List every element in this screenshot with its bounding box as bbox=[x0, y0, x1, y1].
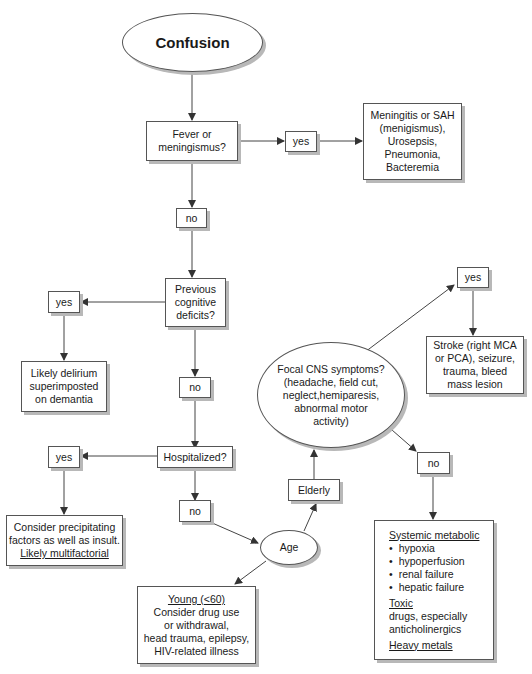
hosp-yes-label: yes bbox=[48, 446, 80, 468]
line: mass lesion bbox=[447, 378, 502, 391]
decision-previous-cognitive-deficits: Previous cognitive deficits? bbox=[165, 278, 226, 327]
outcome-systemic-toxic: Systemic metabolic hypoxia hypoperfusion… bbox=[374, 520, 494, 660]
line: Consider drug use bbox=[154, 606, 240, 619]
start-label: Confusion bbox=[155, 36, 229, 49]
list-item: hepatic failure bbox=[389, 581, 465, 594]
line: trauma, bleed bbox=[443, 365, 507, 378]
line: (headache, field cut, bbox=[284, 376, 379, 389]
hospitalized-label: Hospitalized? bbox=[163, 451, 226, 464]
decision-fever-meningismus: Fever or meningismus? bbox=[146, 121, 238, 161]
line: Urosepsis, bbox=[388, 135, 438, 148]
line: activity) bbox=[313, 415, 349, 428]
fever-no-label: no bbox=[176, 208, 207, 228]
fever-label: Fever or meningismus? bbox=[157, 128, 227, 154]
yes-text: yes bbox=[465, 271, 481, 284]
line: on demantia bbox=[35, 393, 93, 406]
line: Previous bbox=[175, 283, 216, 296]
line: Focal CNS symptoms? bbox=[277, 363, 384, 376]
previous-no-label: no bbox=[179, 377, 211, 398]
no-text: no bbox=[189, 505, 201, 518]
no-text: no bbox=[428, 457, 440, 470]
elderly-text: Elderly bbox=[298, 484, 330, 497]
decision-focal-cns-symptoms: Focal CNS symptoms? (headache, field cut… bbox=[257, 342, 405, 448]
yes-text: yes bbox=[56, 451, 72, 464]
outcome-young: Young (<60) Consider drug use or withdra… bbox=[137, 586, 256, 664]
line: neglect,hemiparesis, bbox=[283, 389, 379, 402]
decision-hospitalized: Hospitalized? bbox=[157, 446, 233, 468]
no-text: no bbox=[186, 212, 198, 225]
line: Pneumonia, bbox=[384, 148, 440, 161]
line: (menigismus), bbox=[380, 122, 446, 135]
line: Bacteremia bbox=[386, 161, 439, 174]
line: head trauma, epilepsy, bbox=[144, 632, 249, 645]
line: or PCA), seizure, bbox=[435, 352, 515, 365]
previous-yes-label: yes bbox=[48, 291, 80, 313]
young-title: Young (<60) bbox=[168, 593, 225, 606]
outcome-meningitis: Meningitis or SAH (menigismus), Urosepsi… bbox=[363, 103, 462, 180]
focal-no-label: no bbox=[417, 452, 450, 474]
focal-yes-label: yes bbox=[457, 267, 489, 288]
line: or withdrawal, bbox=[164, 619, 229, 632]
list-item: hypoperfusion bbox=[389, 555, 465, 568]
toxic-title: Toxic bbox=[389, 597, 413, 610]
likely-multifactorial: Likely multifactorial bbox=[20, 547, 109, 560]
hosp-no-label: no bbox=[179, 500, 211, 522]
line: Meningitis or SAH bbox=[370, 109, 454, 122]
heavy-metals: Heavy metals bbox=[389, 639, 453, 652]
start-node-confusion: Confusion bbox=[122, 13, 263, 72]
list-item: hypoxia bbox=[389, 542, 465, 555]
line: Likely delirium bbox=[31, 367, 98, 380]
line: Stroke (right MCA bbox=[433, 339, 516, 352]
line: deficits? bbox=[176, 309, 215, 322]
systemic-title: Systemic metabolic bbox=[389, 529, 479, 542]
line: cognitive bbox=[175, 296, 216, 309]
systemic-list: hypoxia hypoperfusion renal failure hepa… bbox=[389, 542, 465, 594]
line: anticholinergics bbox=[389, 623, 461, 636]
list-item: renal failure bbox=[389, 568, 465, 581]
fever-yes-label: yes bbox=[285, 131, 317, 152]
line: Consider precipitating bbox=[14, 521, 116, 534]
age-label: Age bbox=[280, 541, 299, 554]
line: superimposted bbox=[30, 380, 99, 393]
outcome-precipitating-factors: Consider precipitating factors as well a… bbox=[6, 515, 123, 566]
line: factors as well as insult. bbox=[9, 534, 120, 547]
line: abnormal motor bbox=[294, 402, 368, 415]
outcome-stroke: Stroke (right MCA or PCA), seizure, trau… bbox=[426, 336, 524, 394]
yes-text: yes bbox=[293, 135, 309, 148]
decision-age: Age bbox=[260, 530, 318, 565]
line: HIV-related illness bbox=[154, 645, 239, 658]
confusion-flowchart: Confusion Fever or meningismus? yes Meni… bbox=[0, 0, 532, 674]
outcome-delirium-on-dementia: Likely delirium superimposted on demanti… bbox=[21, 361, 107, 412]
age-elderly-label: Elderly bbox=[288, 479, 340, 501]
yes-text: yes bbox=[56, 296, 72, 309]
no-text: no bbox=[189, 381, 201, 394]
line: drugs, especially bbox=[389, 610, 467, 623]
